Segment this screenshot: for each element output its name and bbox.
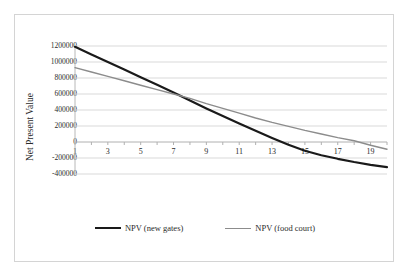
legend-label: NPV (new gates) (125, 223, 183, 233)
legend-item[interactable]: NPV (food court) (225, 223, 315, 233)
series-line (75, 47, 387, 167)
cropped-text-artifact-glyphs: · · · · (0, 0, 17, 1)
plot-area: Net Present Value 1200000100000080000060… (15, 15, 395, 263)
series-line (75, 68, 387, 150)
series-lines (75, 47, 387, 167)
legend-item[interactable]: NPV (new gates) (95, 223, 183, 233)
chart-legend: NPV (new gates)NPV (food court) (15, 218, 395, 238)
gridlines (75, 46, 387, 174)
legend-line-swatch (95, 227, 121, 229)
chart-frame: Net Present Value 1200000100000080000060… (14, 14, 394, 262)
chart-page: · · · · Net Present Value 12000001000000… (0, 0, 409, 273)
legend-label: NPV (food court) (255, 223, 315, 233)
cropped-text-artifact: · · · · (0, 0, 409, 10)
legend-line-swatch (225, 228, 251, 229)
